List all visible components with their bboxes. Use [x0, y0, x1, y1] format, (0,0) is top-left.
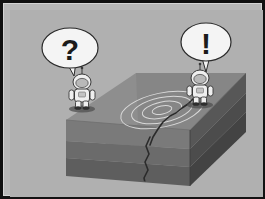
illustration-scene: ? ! [10, 10, 263, 197]
left-figure-antenna-tip [81, 67, 84, 70]
left-figure-boot-left [74, 106, 81, 110]
right-figure-arm-left [187, 86, 192, 96]
question-bubble-text: ? [61, 33, 79, 66]
right-figure-antenna-tip [199, 63, 202, 66]
left-figure-arm-right [90, 90, 95, 100]
right-figure-boot-right [200, 102, 207, 106]
block-front-face [66, 120, 190, 186]
exclamation-bubble-text: ! [201, 27, 211, 60]
left-figure-visor [76, 78, 88, 87]
left-figure-boot-right [82, 106, 89, 110]
right-figure-arm-right [208, 86, 213, 96]
right-figure-chest-panel [197, 88, 204, 93]
left-figure-arm-left [69, 90, 74, 100]
left-figure-shadow [69, 106, 95, 113]
right-figure-boot-left [192, 102, 199, 106]
figure-frame: ? ! [0, 0, 265, 199]
right-figure-shadow [187, 102, 213, 109]
right-figure-visor [194, 74, 206, 83]
figure-inner-border: ? ! [3, 3, 262, 196]
scene-svg: ? ! [10, 10, 263, 197]
left-figure-chest-panel [79, 92, 86, 97]
